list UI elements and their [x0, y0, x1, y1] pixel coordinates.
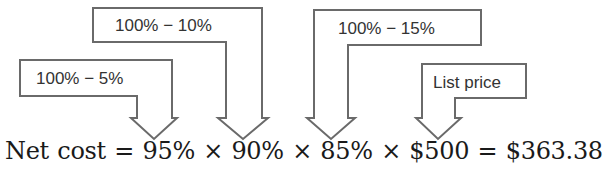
- term-95-percent: 95%: [142, 137, 194, 165]
- term-90-percent: 90%: [231, 137, 283, 165]
- term-list-price: $500: [409, 137, 469, 165]
- times-sign: ×: [203, 137, 223, 165]
- times-sign: ×: [381, 137, 401, 165]
- equation-result: $363.38: [506, 137, 603, 165]
- net-cost-equation: Net cost = 95% × 90% × 85% × $500 = $363…: [5, 137, 603, 165]
- term-85-percent: 85%: [320, 137, 372, 165]
- callout-label-list-price: List price: [433, 74, 501, 91]
- times-sign: ×: [292, 137, 312, 165]
- callout-label-discount-5: 100% − 5%: [36, 70, 123, 87]
- callout-label-discount-10: 100% − 10%: [115, 17, 212, 34]
- equation-lhs: Net cost: [5, 137, 106, 165]
- equals-sign: =: [478, 137, 498, 165]
- callout-label-discount-15: 100% − 15%: [338, 20, 435, 37]
- equals-sign: =: [114, 137, 134, 165]
